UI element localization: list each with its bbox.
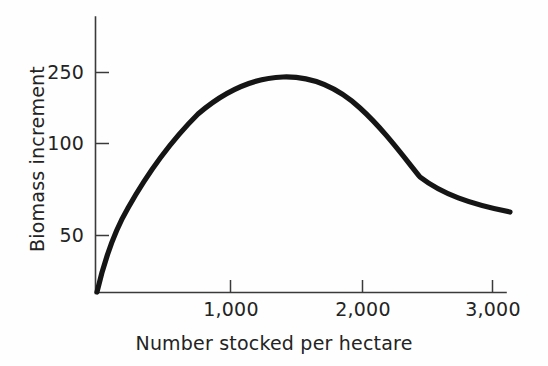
chart-figure: 250 100 50 1,000 2,000 3,000 Number stoc… xyxy=(0,0,548,366)
x-tick-label-1000: 1,000 xyxy=(203,298,258,320)
x-axis-title: Number stocked per hectare xyxy=(0,332,548,354)
x-tick-label-3000: 3,000 xyxy=(465,298,520,320)
biomass-curve xyxy=(97,77,510,292)
y-axis-title: Biomass increment xyxy=(26,34,48,284)
x-tick-label-2000: 2,000 xyxy=(335,298,390,320)
